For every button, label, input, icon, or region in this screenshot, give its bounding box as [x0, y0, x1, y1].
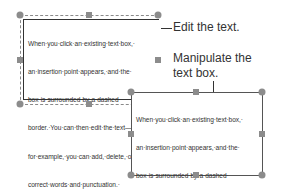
resize-handle-bottom-right[interactable]: [259, 172, 266, 179]
text-line: an·insertion·point·appears,·and·the·: [28, 67, 140, 76]
text-line: When·you·click·an·existing·text·box,·: [28, 39, 140, 48]
resize-handle-middle-right[interactable]: [155, 57, 161, 63]
resize-handle-top-middle[interactable]: [193, 89, 199, 95]
resize-handle-middle-right[interactable]: [259, 131, 265, 137]
text-line: for·example,·you·can·add,·delete,·or·: [28, 152, 140, 161]
text-line: border.·You·can·then·edit·the·text—: [28, 123, 140, 132]
resize-handle-bottom-middle[interactable]: [86, 101, 92, 107]
resize-handle-top-middle[interactable]: [86, 12, 92, 18]
resize-handle-top-left[interactable]: [128, 89, 135, 96]
text-box-editing-content[interactable]: When·you·click·an·existing·text·box,· an…: [28, 20, 140, 189]
edit-callout-leader: [161, 28, 172, 29]
resize-handle-middle-left[interactable]: [128, 131, 134, 137]
manipulate-callout-leader: [213, 81, 214, 92]
manipulate-callout-label-line1: Manipulate the: [173, 51, 252, 66]
resize-handle-top-left[interactable]: [17, 12, 24, 19]
text-line: correct·words·and·punctuation.·: [28, 180, 140, 189]
resize-handle-top-right[interactable]: [259, 89, 266, 96]
manipulate-callout-label-line2: text box.: [173, 66, 218, 81]
text-line: an·insertion·point·appears,·and·the·: [136, 143, 248, 152]
text-line: box·is·surrounded·by·a·dashed·: [28, 95, 140, 104]
resize-handle-bottom-middle[interactable]: [193, 172, 199, 178]
resize-handle-middle-left[interactable]: [17, 57, 23, 63]
edit-callout-label: Edit the text.: [173, 20, 240, 35]
resize-handle-top-right[interactable]: [155, 12, 162, 19]
resize-handle-bottom-left[interactable]: [128, 172, 135, 179]
resize-handle-bottom-left[interactable]: [17, 101, 24, 108]
text-line: When·you·click·an·existing·text·box,·: [136, 115, 248, 124]
